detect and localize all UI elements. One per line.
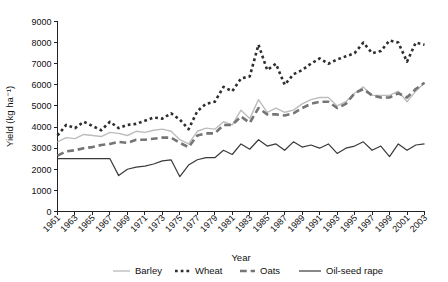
y-tick-label: 1000 [31,186,51,196]
y-tick-label: 2000 [31,165,51,175]
y-axis-title: Yield (kg ha⁻¹) [4,86,15,147]
legend-label-oil-seed-rape: Oil-seed rape [326,265,383,276]
x-tick-label: 1963 [58,213,79,234]
series-line-wheat [58,41,425,136]
legend-label-barley: Barley [135,265,162,276]
y-tick-label: 0 [46,207,51,217]
x-tick-label: 1999 [373,213,394,234]
x-tick-label: 1993 [320,213,341,234]
x-tick-label: 1975 [163,213,184,234]
x-tick-label: 1979 [198,213,219,234]
x-tick-label: 1991 [303,213,324,234]
x-tick-label: 2001 [390,213,411,234]
x-tick-label: 1995 [338,213,359,234]
y-tick-label: 8000 [31,38,51,48]
x-tick-label: 2003 [408,213,429,234]
chart-legend: BarleyWheatOatsOil-seed rape [113,265,383,276]
x-tick-label: 1967 [93,213,114,234]
y-axis-ticks: 0100020003000400050006000700080009000 [31,17,57,217]
y-tick-label: 5000 [31,101,51,111]
series-lines [58,41,425,177]
y-tick-label: 6000 [31,80,51,90]
x-axis-ticks: 1961196319651967196919711973197519771979… [41,212,429,235]
legend-label-oats: Oats [260,265,280,276]
x-tick-label: 1989 [286,213,307,234]
x-tick-label: 1969 [111,213,132,234]
x-tick-label: 1977 [181,213,202,234]
x-tick-label: 1985 [251,213,272,234]
x-axis-title: Year [231,252,250,263]
y-tick-label: 9000 [31,17,51,27]
x-tick-label: 1965 [76,213,97,234]
series-line-oil-seed-rape [58,140,425,177]
y-tick-label: 4000 [31,122,51,132]
y-tick-label: 7000 [31,59,51,69]
x-tick-label: 1971 [128,213,149,234]
x-tick-label: 1983 [233,213,254,234]
x-tick-label: 1961 [41,213,62,234]
yield-line-chart: 0100020003000400050006000700080009000 19… [0,0,448,282]
y-tick-label: 3000 [31,143,51,153]
legend-label-wheat: Wheat [195,265,223,276]
x-tick-label: 1987 [268,213,289,234]
x-tick-label: 1973 [146,213,167,234]
x-tick-label: 1981 [216,213,237,234]
chart-figure: 0100020003000400050006000700080009000 19… [0,0,448,282]
x-tick-label: 1997 [355,213,376,234]
